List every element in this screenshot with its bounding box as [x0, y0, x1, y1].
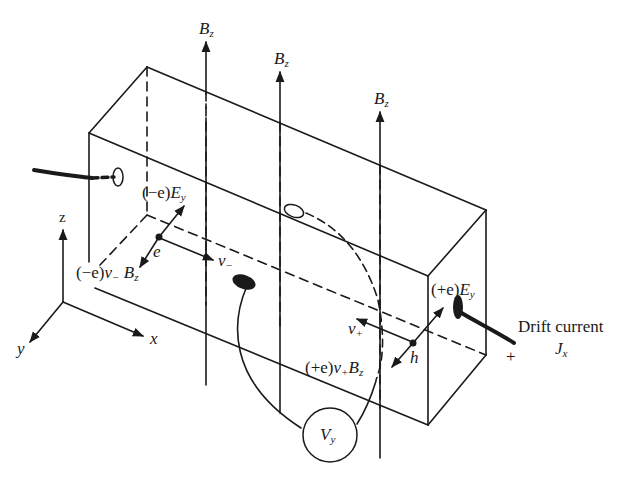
hole-vectors: [357, 308, 443, 367]
hole-velocity-label: v+: [348, 320, 363, 339]
hole-label: h: [410, 349, 419, 366]
bz-label-1: Bz: [199, 20, 214, 39]
electron-label: e: [153, 243, 161, 260]
hall-effect-diagram: Bz Bz Bz z x y (−e)Ey e (−e)v− Bz v− (+e…: [0, 0, 641, 485]
hole-electric-force-label: (+e)Ey: [431, 281, 475, 300]
coordinate-axes: [30, 230, 143, 342]
y-axis-label: y: [17, 340, 25, 357]
electron-electric-force-label: (−e)Ey: [142, 184, 186, 203]
electron-velocity-label: v−: [218, 252, 233, 271]
diagram-lines: [0, 0, 641, 485]
electron-magnetic-force-label: (−e)v− Bz: [76, 264, 138, 283]
voltmeter-label: Vy: [320, 426, 335, 445]
drift-current-label: Drift current: [518, 318, 603, 335]
z-axis-label: z: [59, 210, 66, 225]
hole-magnetic-force-label: (+e)v+Bz: [305, 359, 363, 378]
semiconductor-bar: [89, 67, 486, 425]
current-density-label: Jx: [555, 340, 567, 359]
electron-vectors: [140, 206, 213, 267]
bz-label-3: Bz: [374, 90, 389, 109]
x-axis-label: x: [150, 330, 158, 347]
bz-label-2: Bz: [274, 50, 289, 69]
positive-terminal-label: +: [506, 348, 516, 365]
